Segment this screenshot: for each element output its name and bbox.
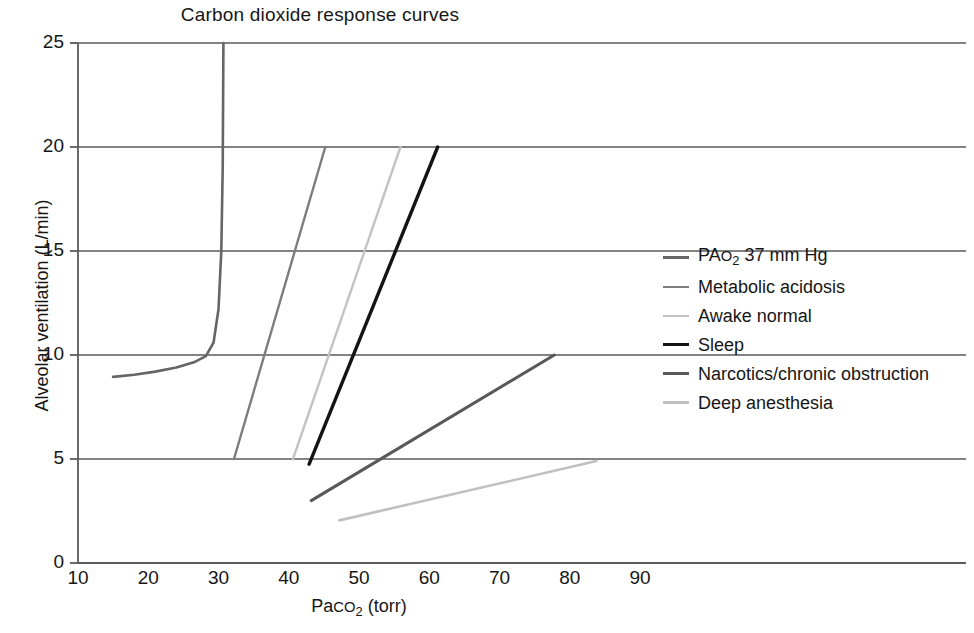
- x-tick-label-60: 60: [406, 567, 452, 589]
- y-tick-label-25: 25: [20, 31, 64, 53]
- legend-swatch-icon: [663, 286, 689, 288]
- x-tick-label-70: 70: [477, 567, 523, 589]
- x-tick-label-40: 40: [266, 567, 312, 589]
- legend-swatch-icon: [663, 372, 689, 375]
- legend-swatch-icon: [663, 401, 689, 404]
- legend-label: Awake normal: [698, 306, 812, 326]
- legend-swatch-icon: [663, 343, 689, 346]
- legend-item-4[interactable]: Narcotics/chronic obstruction: [663, 359, 973, 388]
- legend-label: Deep anesthesia: [698, 393, 833, 413]
- y-tick-label-10: 10: [20, 343, 64, 365]
- axis-ticks: [70, 43, 640, 563]
- legend-item-5[interactable]: Deep anesthesia: [663, 388, 973, 417]
- legend-item-3[interactable]: Sleep: [663, 330, 973, 359]
- y-tick-label-15: 15: [20, 239, 64, 261]
- curve-0: [113, 43, 223, 377]
- chart-legend: PAO2 37 mm HgMetabolic acidosisAwake nor…: [663, 243, 973, 417]
- legend-item-2[interactable]: Awake normal: [663, 301, 973, 330]
- x-tick-label-20: 20: [125, 567, 171, 589]
- y-tick-label-5: 5: [20, 447, 64, 469]
- curve-2: [293, 147, 400, 459]
- x-tick-label-30: 30: [196, 567, 242, 589]
- legend-swatch-icon: [663, 315, 689, 317]
- chart-figure: Carbon dioxide response curves Alveolar …: [0, 0, 974, 633]
- curve-5: [339, 461, 596, 520]
- curve-1: [234, 147, 325, 459]
- x-tick-label-80: 80: [547, 567, 593, 589]
- legend-item-1[interactable]: Metabolic acidosis: [663, 272, 973, 301]
- legend-label: Metabolic acidosis: [698, 277, 845, 297]
- x-tick-label-50: 50: [336, 567, 382, 589]
- legend-swatch-icon: [663, 256, 689, 259]
- legend-label: Sleep: [698, 335, 744, 355]
- legend-item-0[interactable]: PAO2 37 mm Hg: [663, 243, 973, 272]
- legend-label: Narcotics/chronic obstruction: [698, 364, 929, 384]
- legend-label: PAO2 37 mm Hg: [698, 245, 827, 271]
- x-tick-label-10: 10: [55, 567, 101, 589]
- data-curves: [113, 43, 596, 520]
- x-tick-label-90: 90: [617, 567, 663, 589]
- curve-3: [309, 147, 438, 464]
- y-tick-label-20: 20: [20, 135, 64, 157]
